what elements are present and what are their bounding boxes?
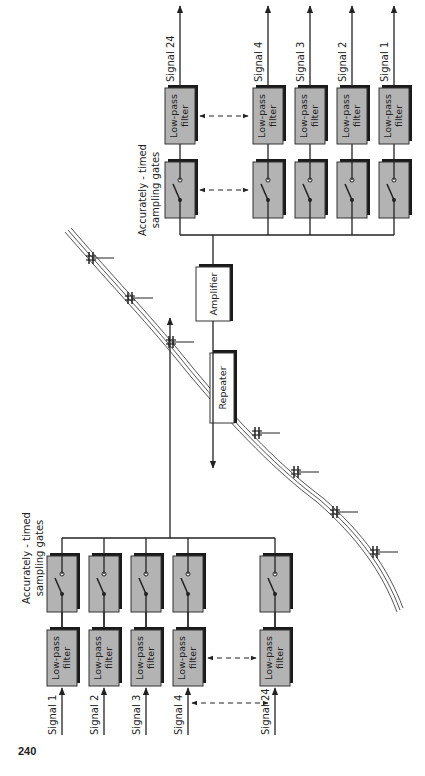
filter-label: filter	[187, 647, 198, 669]
tx-channel: Low-passfilterSignal 24	[260, 538, 293, 735]
filter-label: filter	[393, 105, 404, 127]
low-pass-filter-box: Low-passfilter	[260, 627, 293, 686]
low-pass-label: Low-pass	[263, 636, 274, 680]
tx-channel: Low-passfilterSignal 1	[47, 538, 80, 735]
tx-channel: Low-passfilterSignal 4	[173, 538, 206, 735]
filter-label: filter	[351, 105, 362, 127]
low-pass-label: Low-pass	[382, 94, 393, 138]
sampling-gate-box	[379, 159, 412, 218]
transmit-bank: Low-passfilterSignal 1Low-passfilterSign…	[47, 538, 293, 735]
repeater-label: Repeater	[217, 366, 228, 409]
signal-label: Signal 3	[131, 695, 142, 735]
low-pass-filter-box: Low-passfilter	[379, 85, 412, 144]
tx-gates-label-2: sampling gates	[34, 520, 45, 597]
low-pass-label: Low-pass	[340, 94, 351, 138]
sampling-gate-box	[260, 553, 293, 612]
low-pass-label: Low-pass	[168, 94, 179, 138]
sampling-gate-box	[89, 553, 122, 612]
rx-channel: Low-passfilterSignal 24	[165, 6, 198, 235]
low-pass-filter-box: Low-passfilter	[295, 85, 328, 144]
sampling-gate-box	[337, 159, 370, 218]
low-pass-filter-box: Low-passfilter	[47, 627, 80, 686]
page-number: 240	[18, 745, 36, 757]
multiplex-diagram: Repeater Amplifier Low-passfilterSignal …	[0, 0, 425, 776]
rx-channel: Low-passfilterSignal 2	[337, 6, 370, 235]
filter-label: filter	[103, 647, 114, 669]
low-pass-filter-box: Low-passfilter	[131, 627, 164, 686]
tx-channel: Low-passfilterSignal 2	[89, 538, 122, 735]
receive-bank: Low-passfilterSignal 24Low-passfilterSig…	[165, 6, 412, 235]
cable-splice-icon	[370, 546, 398, 558]
filter-label: filter	[309, 105, 320, 127]
sampling-gate-box	[173, 553, 206, 612]
low-pass-filter-box: Low-passfilter	[89, 627, 122, 686]
cable-splice-icon	[291, 466, 319, 478]
low-pass-filter-box: Low-passfilter	[337, 85, 370, 144]
rx-channel: Low-passfilterSignal 3	[295, 6, 328, 235]
rx-channel: Low-passfilterSignal 4	[253, 6, 286, 235]
amplifier-label: Amplifier	[208, 273, 219, 316]
filter-label: filter	[61, 647, 72, 669]
cable-splice-icon	[86, 252, 114, 264]
filter-label: filter	[179, 105, 190, 127]
filter-label: filter	[267, 105, 278, 127]
sampling-gate-box	[253, 159, 286, 218]
low-pass-filter-box: Low-passfilter	[173, 627, 206, 686]
filter-label: filter	[145, 647, 156, 669]
low-pass-label: Low-pass	[50, 636, 61, 680]
low-pass-filter-box: Low-passfilter	[253, 85, 286, 144]
repeater-box: Repeater	[210, 350, 237, 423]
sampling-gate-box	[295, 159, 328, 218]
signal-label: Signal 4	[173, 695, 184, 735]
low-pass-label: Low-pass	[256, 94, 267, 138]
tx-channel: Low-passfilterSignal 3	[131, 538, 164, 735]
low-pass-label: Low-pass	[92, 636, 103, 680]
low-pass-filter-box: Low-passfilter	[165, 85, 198, 144]
low-pass-label: Low-pass	[176, 636, 187, 680]
filter-label: filter	[274, 647, 285, 669]
signal-label: Signal 2	[337, 42, 348, 82]
tx-gates-label-1: Accurately - timed	[21, 512, 32, 604]
signal-label: Signal 1	[47, 695, 58, 735]
signal-label: Signal 24	[260, 688, 271, 735]
rx-channel: Low-passfilterSignal 1	[379, 6, 412, 235]
low-pass-label: Low-pass	[134, 636, 145, 680]
signal-label: Signal 1	[379, 42, 390, 82]
signal-label: Signal 2	[89, 695, 100, 735]
cable-splice-icon	[252, 427, 280, 439]
low-pass-label: Low-pass	[298, 94, 309, 138]
rx-gates-label-1: Accurately - timed	[137, 144, 148, 236]
sampling-gate-box	[165, 159, 198, 218]
sampling-gate-box	[131, 553, 164, 612]
amplifier-box: Amplifier	[196, 264, 233, 321]
sampling-gate-box	[47, 553, 80, 612]
rx-gates-label-2: sampling gates	[150, 152, 161, 229]
signal-label: Signal 4	[253, 42, 264, 82]
signal-label: Signal 3	[295, 42, 306, 82]
signal-label: Signal 24	[165, 35, 176, 82]
